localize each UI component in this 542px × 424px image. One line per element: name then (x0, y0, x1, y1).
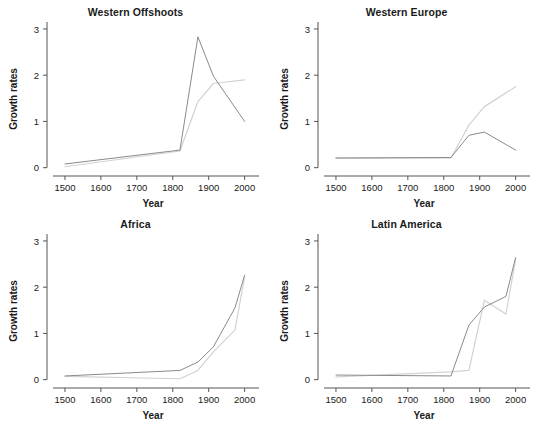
x-tick-label: 1800 (433, 182, 454, 193)
y-tick-label: 2 (305, 282, 310, 293)
panel-africa: 0123150016001700180019002000 Africa Grow… (0, 212, 271, 424)
series-line-light (65, 277, 245, 379)
panel-title: Latin America (271, 218, 542, 230)
series-line-light (336, 259, 516, 376)
y-tick-label: 3 (34, 236, 39, 247)
figure-canvas: 0123150016001700180019002000 Western Off… (0, 0, 542, 424)
x-tick-label: 1900 (198, 182, 219, 193)
x-axis-label: Year (318, 198, 530, 209)
x-tick-label: 1500 (54, 182, 75, 193)
x-tick-label: 1900 (469, 394, 490, 405)
panel-title: Africa (0, 218, 271, 230)
series-line-light (336, 87, 516, 159)
y-axis-label: Growth rates (278, 251, 292, 371)
plot-area: 0123150016001700180019002000 (0, 212, 271, 424)
x-tick-label: 1800 (162, 394, 183, 405)
y-tick-label: 0 (34, 162, 39, 173)
x-tick-label: 1600 (361, 394, 382, 405)
x-axis-label: Year (47, 198, 259, 209)
panel-western-europe: 0123150016001700180019002000 Western Eur… (271, 0, 542, 212)
panel-western-offshoots: 0123150016001700180019002000 Western Off… (0, 0, 271, 212)
x-tick-label: 1700 (397, 182, 418, 193)
panel-title: Western Offshoots (0, 6, 271, 18)
x-tick-label: 1600 (361, 182, 382, 193)
x-tick-label: 1500 (325, 394, 346, 405)
y-tick-label: 1 (34, 116, 39, 127)
y-tick-label: 2 (305, 70, 310, 81)
y-tick-label: 0 (34, 374, 39, 385)
y-tick-label: 3 (305, 236, 310, 247)
y-axis-label: Growth rates (7, 251, 21, 371)
y-tick-label: 0 (305, 162, 310, 173)
series-line-light (65, 80, 245, 167)
x-tick-label: 1500 (54, 394, 75, 405)
y-tick-label: 1 (305, 116, 310, 127)
x-tick-label: 2000 (505, 182, 526, 193)
y-axis-label: Growth rates (278, 39, 292, 159)
series-line-dark (336, 258, 516, 376)
x-tick-label: 2000 (234, 394, 255, 405)
panel-latin-america: 0123150016001700180019002000 Latin Ameri… (271, 212, 542, 424)
plot-area: 0123150016001700180019002000 (271, 212, 542, 424)
x-tick-label: 1800 (162, 182, 183, 193)
x-tick-label: 1900 (198, 394, 219, 405)
y-tick-label: 1 (34, 328, 39, 339)
x-axis-label: Year (47, 410, 259, 421)
x-tick-label: 1600 (90, 394, 111, 405)
x-tick-label: 2000 (505, 394, 526, 405)
series-line-dark (336, 132, 516, 158)
y-tick-label: 2 (34, 282, 39, 293)
x-tick-label: 1500 (325, 182, 346, 193)
x-tick-label: 1700 (397, 394, 418, 405)
panel-title: Western Europe (271, 6, 542, 18)
x-axis-label: Year (318, 410, 530, 421)
x-tick-label: 2000 (234, 182, 255, 193)
x-tick-label: 1900 (469, 182, 490, 193)
y-tick-label: 3 (34, 24, 39, 35)
series-line-dark (65, 275, 245, 376)
plot-area: 0123150016001700180019002000 (271, 0, 542, 212)
y-tick-label: 2 (34, 70, 39, 81)
y-axis-label: Growth rates (7, 39, 21, 159)
x-tick-label: 1600 (90, 182, 111, 193)
x-tick-label: 1700 (126, 182, 147, 193)
x-tick-label: 1800 (433, 394, 454, 405)
series-line-dark (65, 37, 245, 164)
plot-area: 0123150016001700180019002000 (0, 0, 271, 212)
y-tick-label: 1 (305, 328, 310, 339)
y-tick-label: 3 (305, 24, 310, 35)
y-tick-label: 0 (305, 374, 310, 385)
x-tick-label: 1700 (126, 394, 147, 405)
